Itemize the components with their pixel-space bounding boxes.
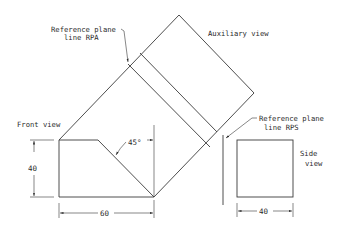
auxiliary-view — [59, 15, 254, 197]
auxiliary-view-top-edge — [179, 15, 254, 93]
front-width-value: 60 — [100, 209, 110, 218]
reference-plane-rpa-line — [128, 64, 210, 147]
chamfer-angle-dimension: 45° — [116, 125, 154, 196]
side-view-label-line2: view — [305, 159, 323, 168]
front-height-value: 40 — [28, 164, 38, 173]
drawing-canvas: Reference plane line RPA Auxiliary view … — [0, 0, 347, 230]
rpa-label-line2: line RPA — [64, 33, 99, 42]
front-view-label: Front view — [17, 120, 61, 129]
side-view-outline — [237, 140, 293, 197]
side-width-value: 40 — [259, 207, 269, 216]
front-height-dimension: 40 — [28, 140, 54, 197]
front-view — [59, 140, 154, 197]
angle-arrow-left — [116, 142, 126, 155]
front-width-dimension: 60 — [59, 200, 154, 218]
rps-label-line2: line RPS — [264, 123, 299, 132]
rps-label-line1: Reference plane — [259, 114, 324, 123]
side-view-label-line1: Side — [300, 149, 317, 158]
rps-leader-arrow — [226, 118, 257, 138]
chamfer-angle-value: 45° — [128, 138, 142, 147]
side-width-dimension: 40 — [237, 203, 293, 217]
side-view: Side view — [237, 140, 323, 197]
front-view-outline — [59, 140, 154, 197]
projection-line-right — [154, 93, 254, 197]
orthographic-projection-diagram: Reference plane line RPA Auxiliary view … — [0, 0, 347, 230]
rpa-callout: Reference plane line RPA — [51, 25, 128, 62]
auxiliary-view-label: Auxiliary view — [208, 29, 269, 38]
rpa-leader-arrow — [121, 29, 128, 62]
auxiliary-view-inner-edge — [140, 53, 217, 132]
